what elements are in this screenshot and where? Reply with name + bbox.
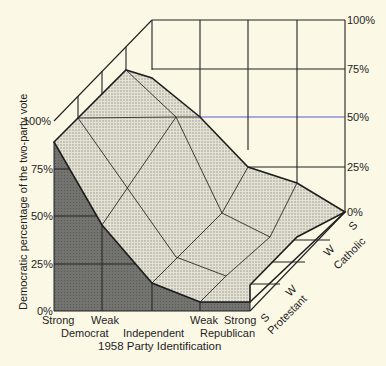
x-tick-weak-dem: Weak <box>91 314 119 326</box>
x-axis-title: 1958 Party Identification <box>98 340 221 352</box>
y-tick-front-75: 75% <box>31 163 53 175</box>
x-group-republican: Republican <box>200 327 255 339</box>
y-axis-title: Democratic percentage of the two-party v… <box>17 94 29 310</box>
x-group-democrat: Democrat <box>61 327 109 339</box>
y-tick-front-25: 25% <box>31 258 53 270</box>
x-group-independent: Independent <box>123 327 184 339</box>
y-tick-back-100: 100% <box>347 14 375 26</box>
y-tick-back-25: 25% <box>347 161 369 173</box>
3d-surface-chart <box>0 0 386 366</box>
y-tick-back-75: 75% <box>347 63 369 75</box>
x-tick-strong-rep: Strong <box>224 314 256 326</box>
x-tick-strong-dem: Strong <box>42 314 74 326</box>
y-tick-back-0: 0% <box>347 206 363 218</box>
x-tick-weak-rep: Weak <box>190 314 218 326</box>
y-tick-back-50: 50% <box>347 111 369 123</box>
y-tick-front-50: 50% <box>31 210 53 222</box>
